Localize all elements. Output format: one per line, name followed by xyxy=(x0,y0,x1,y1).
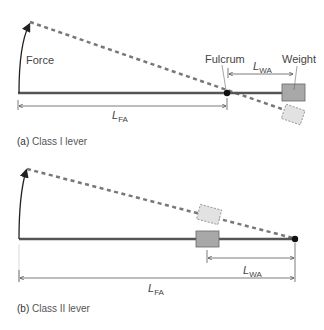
force-label: Force xyxy=(26,55,54,66)
force-arrow-arc-b xyxy=(19,171,26,239)
diagram-graphics xyxy=(0,0,324,330)
weight-box-b xyxy=(196,231,219,247)
fulcrum-leader xyxy=(222,65,226,90)
rotated-lever-dashed xyxy=(30,22,282,109)
fulcrum-label: Fulcrum xyxy=(205,54,245,65)
fulcrum-dot-b xyxy=(292,236,298,242)
caption-b: (b) Class II lever xyxy=(17,304,90,314)
caption-a: (a) Class I lever xyxy=(17,137,87,147)
lever-diagram: Force Fulcrum Weight LWA LFA (a) Class I… xyxy=(0,0,324,330)
fulcrum-dot xyxy=(224,90,230,96)
weight-displaced-ghost-b xyxy=(197,204,222,224)
weight-box xyxy=(282,84,305,101)
lwa-label-b: LWA xyxy=(243,265,262,279)
lfa-label-a: LFA xyxy=(112,110,128,124)
weight-displaced-ghost xyxy=(281,104,305,125)
weight-label: Weight xyxy=(282,54,316,65)
rotated-lever-dashed-b xyxy=(27,169,293,238)
lfa-label-b: LFA xyxy=(148,283,164,297)
lwa-label-a: LWA xyxy=(253,61,272,75)
